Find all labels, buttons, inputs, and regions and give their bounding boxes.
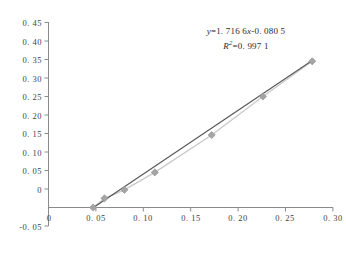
linear-trendline	[93, 60, 314, 209]
regression-equation-line: y=1. 716 6x-0. 080 5	[186, 25, 306, 38]
y-tick-label-0.30: 0. 30	[2, 74, 42, 84]
y-tick-label-0.40: 0. 40	[2, 37, 42, 47]
y-tick-label-0.35: 0. 35	[2, 55, 42, 65]
y-tick-label-0.10: 0. 10	[2, 148, 42, 158]
r-squared-value: =0. 997 1	[233, 41, 269, 51]
y-tick-label--0.05: -0. 05	[2, 222, 42, 232]
x-tick-label-0.15: 0. 15	[172, 213, 210, 223]
equation-slope: =1. 716 6	[211, 26, 247, 36]
x-tick-label-0: 0	[43, 213, 55, 223]
y-tick-label-0.15: 0. 15	[2, 129, 42, 139]
x-tick-label-0.10: 0. 10	[124, 213, 162, 223]
scatter-chart: 0. 45 0. 40 0. 35 0. 30 0. 25 0. 20 0. 1…	[0, 0, 346, 255]
y-tick-label-0.20: 0. 20	[2, 111, 42, 121]
y-tick-label-0.25: 0. 25	[2, 92, 42, 102]
data-point	[151, 169, 158, 176]
y-tick-label-0.05: 0. 05	[2, 166, 42, 176]
x-tick-label-0.30: 0. 30	[314, 213, 346, 223]
x-tick-label-0.25: 0. 25	[266, 213, 304, 223]
x-tick-label-0.20: 0. 20	[219, 213, 257, 223]
regression-annotation: y=1. 716 6x-0. 080 5 R2=0. 997 1	[186, 25, 306, 53]
y-tick-label-0: 0	[2, 185, 42, 195]
equation-intercept: -0. 080 5	[251, 26, 285, 36]
x-tick-label-0.05: 0. 05	[77, 213, 115, 223]
y-axis-ticks	[45, 23, 49, 227]
r-squared-line: R2=0. 997 1	[186, 38, 306, 53]
y-tick-label-0.45: 0. 45	[2, 18, 42, 28]
data-point	[121, 186, 128, 193]
